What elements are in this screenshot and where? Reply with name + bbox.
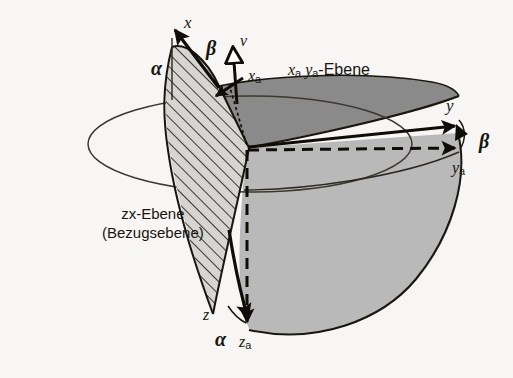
xaya-plane-label: xaya-Ebene [288,62,370,79]
za-axis-label: za [239,334,251,351]
zx-plane-label-line2: (Bezugsebene) [102,225,204,240]
alpha-lower-label: α [215,329,226,349]
zx-plane-label: zx-Ebene (Bezugsebene) [102,206,204,240]
v-vector-label: v [240,33,247,49]
beta-marker-right [455,124,468,141]
ya-axis-label: ya [452,160,465,177]
beta-upper-label: β [206,38,216,58]
za-axis-sub: a [245,339,251,351]
figure-canvas: x β v α xa xaya-Ebene y β ya zx-Ebene (B… [0,0,513,378]
xa-axis-label: xa [248,68,261,85]
alpha-upper-label: α [151,58,162,78]
x-axis-label: x [184,14,192,31]
coordinate-system-illustration [0,0,513,378]
ya-axis-sub: a [459,165,465,177]
beta-right-label: β [479,131,489,151]
xa-axis-sub: a [255,73,261,85]
zx-plane-label-line1: zx-Ebene [102,206,204,221]
xaya-label-xsub: a [295,67,301,79]
z-axis-label: z [203,307,209,323]
xaya-label-suffix: -Ebene [318,61,370,78]
y-axis-label: y [446,97,454,114]
